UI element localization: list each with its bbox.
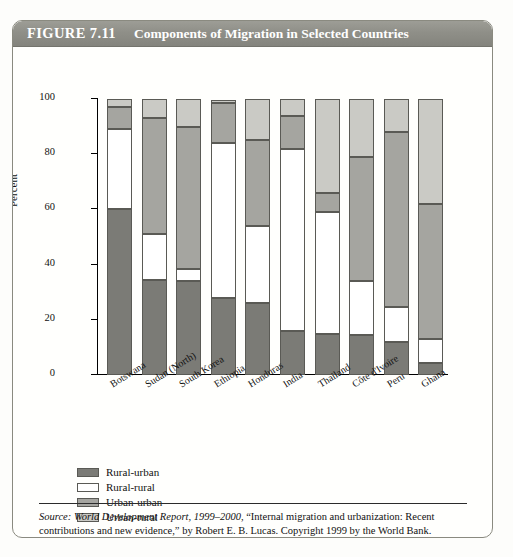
- y-tick-label: 60: [15, 201, 55, 212]
- bar-segment-rural-rural[interactable]: [107, 129, 132, 209]
- bar-segment-urban-rural[interactable]: [280, 99, 305, 116]
- bar-ethiopia[interactable]: [211, 99, 236, 375]
- legend-label: Rural-rural: [106, 481, 155, 493]
- figure-title: Components of Migration in Selected Coun…: [134, 26, 409, 42]
- bar-segment-urban-rural[interactable]: [315, 99, 340, 193]
- bar-peru[interactable]: [384, 99, 409, 375]
- y-tick-label: 20: [15, 312, 55, 323]
- bar-ghana[interactable]: [418, 99, 443, 375]
- source-prefix: Source:: [39, 511, 71, 522]
- bar-segment-urban-urban[interactable]: [280, 116, 305, 149]
- bar-segment-urban-rural[interactable]: [418, 99, 443, 204]
- bar-segment-urban-urban[interactable]: [245, 140, 270, 226]
- bar-india[interactable]: [280, 99, 305, 375]
- y-tick-label: 40: [15, 257, 55, 268]
- bar-segment-rural-rural[interactable]: [384, 307, 409, 342]
- bar-segment-rural-urban[interactable]: [107, 209, 132, 375]
- bar-segment-urban-urban[interactable]: [211, 103, 236, 143]
- bar-segment-urban-urban[interactable]: [418, 204, 443, 339]
- bar-segment-urban-urban[interactable]: [384, 132, 409, 307]
- bar-segment-urban-rural[interactable]: [176, 99, 201, 127]
- source-publication: World Development Report, 1999–2000,: [74, 511, 244, 522]
- bar-segment-rural-urban[interactable]: [245, 303, 270, 375]
- legend-label: Rural-urban: [106, 466, 159, 478]
- figure-title-bar: FIGURE 7.11 Components of Migration in S…: [13, 21, 492, 47]
- legend-item-rural-urban[interactable]: Rural-urban: [77, 465, 277, 479]
- figure-page: FIGURE 7.11 Components of Migration in S…: [0, 0, 513, 557]
- y-tick-label: 100: [15, 91, 55, 102]
- bar-segment-rural-rural[interactable]: [280, 149, 305, 331]
- legend-item-rural-rural[interactable]: Rural-rural: [77, 480, 277, 494]
- bar-segment-rural-rural[interactable]: [176, 269, 201, 281]
- bar-segment-rural-rural[interactable]: [211, 143, 236, 298]
- bar-segment-urban-rural[interactable]: [107, 99, 132, 107]
- bar-honduras[interactable]: [245, 99, 270, 375]
- bar-segment-urban-urban[interactable]: [349, 157, 374, 281]
- bar-segment-rural-rural[interactable]: [142, 234, 167, 280]
- legend-label: Urban-urban: [106, 496, 162, 508]
- plot-zone: Percent 020406080100 BotswanaSudan (Nort…: [13, 47, 493, 487]
- bar-segment-rural-rural[interactable]: [245, 226, 270, 303]
- y-tick-label: 0: [15, 367, 55, 378]
- bar-segment-rural-rural[interactable]: [315, 212, 340, 333]
- bar-sudan-north[interactable]: [142, 99, 167, 375]
- source-divider: [39, 503, 467, 504]
- stacked-bars: [97, 98, 448, 375]
- legend-item-urban-urban[interactable]: Urban-urban: [77, 495, 277, 509]
- bar-segment-urban-urban[interactable]: [107, 107, 132, 129]
- bar-c-te-d-ivoire[interactable]: [349, 99, 374, 375]
- bar-segment-urban-rural[interactable]: [211, 100, 236, 103]
- y-tick-label: 80: [15, 146, 55, 157]
- bar-segment-urban-rural[interactable]: [349, 99, 374, 157]
- figure-frame: FIGURE 7.11 Components of Migration in S…: [12, 20, 493, 538]
- bar-segment-urban-rural[interactable]: [142, 99, 167, 118]
- bar-segment-urban-urban[interactable]: [176, 127, 201, 269]
- source-note: Source: World Development Report, 1999–2…: [39, 510, 471, 538]
- figure-number: FIGURE 7.11: [27, 25, 116, 42]
- legend-swatch-rural-rural: [77, 483, 99, 492]
- legend-swatch-rural-urban: [77, 468, 99, 477]
- bar-segment-urban-urban[interactable]: [142, 118, 167, 234]
- bar-segment-urban-rural[interactable]: [245, 99, 270, 140]
- bar-segment-urban-rural[interactable]: [384, 99, 409, 132]
- legend-swatch-urban-urban: [77, 498, 99, 507]
- bar-segment-rural-rural[interactable]: [349, 281, 374, 335]
- bar-south-korea[interactable]: [176, 99, 201, 375]
- bar-thailand[interactable]: [315, 99, 340, 375]
- bar-botswana[interactable]: [107, 99, 132, 375]
- bar-segment-urban-urban[interactable]: [315, 193, 340, 212]
- bar-segment-rural-urban[interactable]: [142, 280, 167, 375]
- bar-segment-rural-rural[interactable]: [418, 339, 443, 362]
